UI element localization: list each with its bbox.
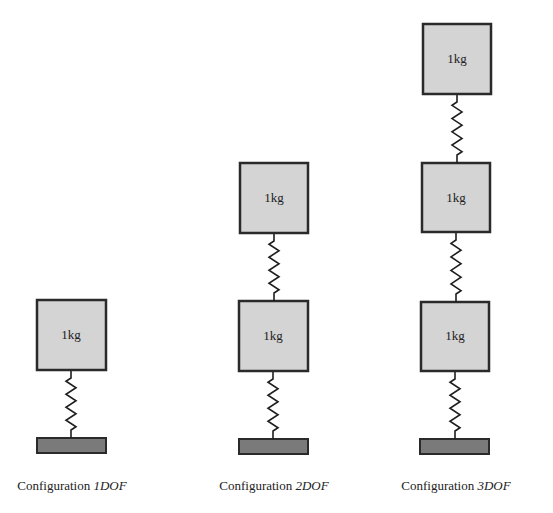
spring-mass-diagram: 1kg Configuration 1DOF 1kg 1kg Configura…	[0, 0, 553, 513]
configuration-1dof: 1kg Configuration 1DOF	[17, 300, 127, 493]
spring	[451, 232, 461, 302]
mass-label: 1kg	[263, 328, 283, 343]
caption-1dof: Configuration 1DOF	[17, 478, 127, 493]
spring	[450, 371, 460, 439]
spring	[268, 371, 278, 439]
configuration-3dof: 1kg 1kg 1kg Configuration 3DOF	[401, 24, 511, 493]
spring	[66, 370, 76, 438]
mass-label: 1kg	[61, 327, 81, 342]
mass-label: 1kg	[445, 328, 465, 343]
mass-label: 1kg	[446, 190, 466, 205]
caption-2dof: Configuration 2DOF	[219, 478, 329, 493]
mass-label: 1kg	[264, 190, 284, 205]
spring	[452, 94, 462, 163]
ground-base	[37, 438, 106, 453]
ground-base	[420, 439, 489, 454]
mass-label: 1kg	[447, 51, 467, 66]
caption-3dof: Configuration 3DOF	[401, 478, 511, 493]
configuration-2dof: 1kg 1kg Configuration 2DOF	[219, 163, 329, 493]
spring	[269, 233, 279, 301]
ground-base	[239, 439, 308, 454]
